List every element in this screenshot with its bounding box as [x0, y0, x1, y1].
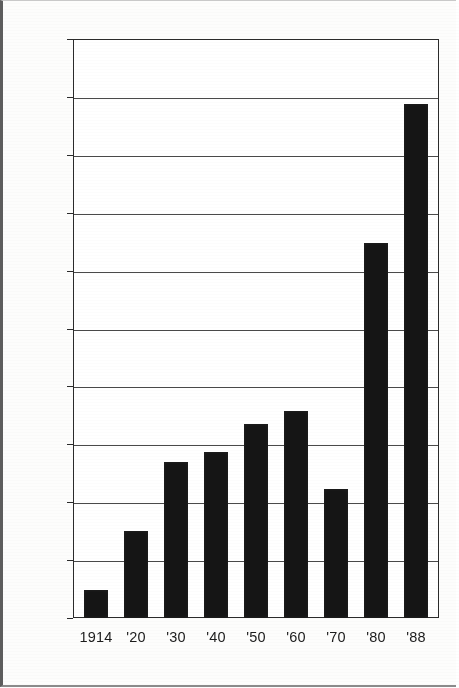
bar-88[interactable]	[404, 104, 429, 618]
bar-slot	[396, 39, 436, 618]
bar-1914[interactable]	[84, 590, 109, 618]
bar-slot	[236, 39, 276, 618]
bar-chart: 070140210280350420490560630700 1914'20'3…	[3, 1, 459, 688]
bar-slot	[316, 39, 356, 618]
bar-slot	[156, 39, 196, 618]
x-tick-label: 1914	[76, 629, 116, 645]
bar-slot	[196, 39, 236, 618]
x-tick-label: '88	[396, 629, 436, 645]
x-axis-labels: 1914'20'30'40'50'60'70'80'88	[73, 629, 439, 645]
bar-slot	[356, 39, 396, 618]
bar-30[interactable]	[164, 462, 189, 618]
x-tick-label: '60	[276, 629, 316, 645]
y-tick-mark	[67, 618, 73, 619]
x-tick-label: '70	[316, 629, 356, 645]
bar-slot	[116, 39, 156, 618]
bar-80[interactable]	[364, 243, 389, 618]
bar-50[interactable]	[244, 424, 269, 618]
x-tick-label: '50	[236, 629, 276, 645]
bar-40[interactable]	[204, 452, 229, 618]
bar-70[interactable]	[324, 489, 349, 618]
bar-20[interactable]	[124, 531, 149, 618]
bar-slot	[276, 39, 316, 618]
x-tick-label: '20	[116, 629, 156, 645]
bar-60[interactable]	[284, 411, 309, 618]
x-tick-label: '30	[156, 629, 196, 645]
x-tick-label: '40	[196, 629, 236, 645]
bar-group	[73, 39, 439, 618]
x-tick-label: '80	[356, 629, 396, 645]
bar-slot	[76, 39, 116, 618]
